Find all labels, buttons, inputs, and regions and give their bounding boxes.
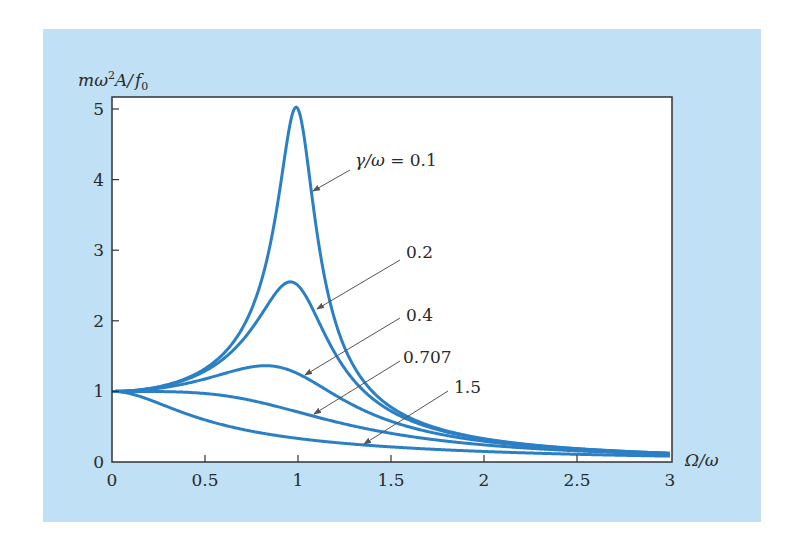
x-tick-label: 1.5: [377, 470, 404, 490]
resonance-chart: 00.511.522.53 012345 γ/ω = 0.10.20.40.70…: [0, 0, 799, 551]
y-tick-label: 1: [93, 381, 104, 401]
curve-label: 0.4: [406, 305, 433, 325]
curve-label: 1.5: [454, 377, 481, 397]
y-tick-label: 3: [93, 240, 104, 260]
x-tick-label: 2: [479, 470, 490, 490]
curve-label: 0.707: [403, 347, 452, 367]
y-tick-label: 2: [93, 311, 104, 331]
x-tick-label: 1: [293, 470, 304, 490]
x-tick-label: 0.5: [191, 470, 218, 490]
x-tick-label: 0: [107, 470, 118, 490]
y-tick-label: 5: [93, 99, 104, 119]
y-tick-label: 0: [93, 452, 104, 472]
y-axis-title: mω2A/f0: [78, 69, 148, 93]
x-tick-label: 3: [665, 470, 676, 490]
x-tick-label: 2.5: [563, 470, 590, 490]
y-tick-label: 4: [93, 170, 104, 190]
curve-label: γ/ω = 0.1: [355, 150, 437, 170]
x-axis-title: Ω/ω: [684, 450, 719, 470]
curve-label: 0.2: [406, 242, 433, 262]
